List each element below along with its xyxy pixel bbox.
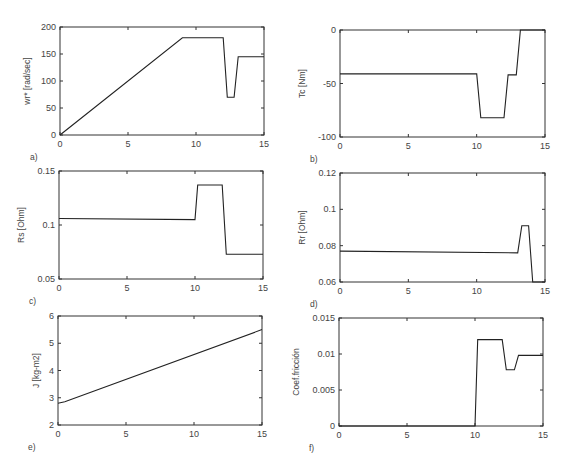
panel-label: f) (309, 443, 314, 453)
y-axis-label: Rs [Ohm] (16, 207, 26, 243)
x-tick-label: 0 (57, 139, 62, 149)
y-tick-label: 4 (49, 366, 54, 376)
data-series-line (340, 226, 545, 282)
x-tick-label: 15 (259, 139, 269, 149)
data-series-line (58, 330, 262, 404)
x-tick-label: 5 (123, 429, 128, 439)
panel-label: b) (310, 154, 318, 164)
x-tick-label: 0 (55, 429, 60, 439)
x-tick-label: 10 (472, 286, 482, 296)
subplot-e: 05101523456J [kg-m2]e) (28, 311, 267, 452)
y-tick-label: 0.06 (318, 277, 336, 287)
subplot-a: 051015050100150200wr* [rad/sec]a) (22, 22, 269, 162)
y-axis-label: wr* [rad/sec] (22, 57, 32, 105)
y-tick-label: 50 (46, 103, 56, 113)
y-tick-label: 0.1 (42, 220, 55, 230)
y-tick-label: 0 (330, 421, 335, 431)
data-series-line (59, 185, 263, 254)
y-tick-label: 3 (49, 393, 54, 403)
y-tick-label: 0.015 (312, 313, 335, 323)
x-tick-label: 0 (337, 286, 342, 296)
x-tick-label: 5 (406, 286, 411, 296)
panel-label: e) (28, 442, 36, 452)
y-tick-label: 0.1 (323, 204, 336, 214)
y-tick-label: 150 (41, 49, 56, 59)
x-tick-label: 5 (124, 283, 129, 293)
y-axis-label: J [kg-m2] (31, 353, 41, 388)
x-tick-label: 15 (538, 430, 548, 440)
x-tick-label: 5 (404, 430, 409, 440)
y-axis-label: Rr [Ohm] (297, 210, 307, 244)
x-tick-label: 5 (406, 141, 411, 151)
y-tick-label: 0.01 (317, 349, 335, 359)
x-tick-label: 10 (191, 139, 201, 149)
figure-canvas: 051015050100150200wr* [rad/sec]a)051015-… (0, 0, 565, 464)
x-tick-label: 0 (56, 283, 61, 293)
panel-label: d) (310, 299, 318, 309)
subplot-b: 051015-100-500Tc [Nm]b) (297, 25, 550, 164)
y-axis-label: Tc [Nm] (297, 69, 307, 98)
data-series-line (60, 38, 264, 135)
axes-frame (58, 316, 262, 425)
subplot-f: 05101500.0050.010.015Coef.fricciónf) (291, 313, 548, 453)
y-tick-label: -100 (318, 132, 336, 142)
x-tick-label: 15 (540, 286, 550, 296)
axes-frame (60, 27, 264, 135)
y-tick-label: 0.15 (37, 166, 55, 176)
x-tick-label: 10 (190, 283, 200, 293)
axes-frame (59, 171, 263, 279)
x-tick-label: 10 (189, 429, 199, 439)
x-tick-label: 15 (540, 141, 550, 151)
axes-frame (340, 173, 545, 282)
subplot-c: 0510150.050.10.15Rs [Ohm]c) (16, 166, 268, 306)
y-tick-label: 0 (51, 130, 56, 140)
subplot-d: 0510150.060.080.10.12Rr [Ohm]d) (297, 168, 550, 309)
y-tick-label: 0 (331, 25, 336, 35)
y-axis-label: Coef.fricción (291, 348, 301, 396)
y-tick-label: 0.12 (318, 168, 336, 178)
y-tick-label: 2 (49, 420, 54, 430)
x-tick-label: 10 (470, 430, 480, 440)
y-tick-label: 100 (41, 76, 56, 86)
x-tick-label: 0 (337, 141, 342, 151)
y-tick-label: 200 (41, 22, 56, 32)
data-series-line (339, 340, 543, 426)
axes-frame (339, 318, 543, 426)
x-tick-label: 5 (125, 139, 130, 149)
y-tick-label: 0.08 (318, 241, 336, 251)
panel-label: a) (30, 152, 38, 162)
x-tick-label: 15 (257, 429, 267, 439)
y-tick-label: 0.05 (37, 274, 55, 284)
x-tick-label: 10 (472, 141, 482, 151)
y-tick-label: 5 (49, 338, 54, 348)
x-tick-label: 15 (258, 283, 268, 293)
y-tick-label: 0.005 (312, 385, 335, 395)
panel-label: c) (29, 296, 36, 306)
y-tick-label: 6 (49, 311, 54, 321)
data-series-line (340, 30, 545, 118)
x-tick-label: 0 (336, 430, 341, 440)
axes-frame (340, 30, 545, 137)
y-tick-label: -50 (323, 79, 336, 89)
